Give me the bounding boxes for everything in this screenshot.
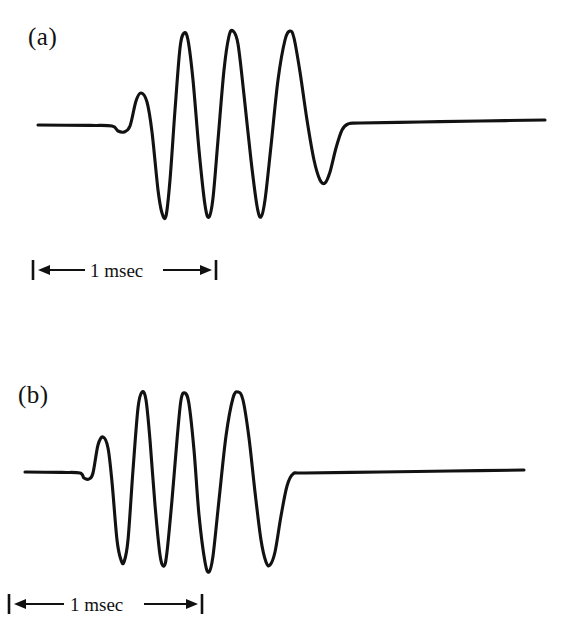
figure-container: (a) 1 msec (b) <box>0 0 564 633</box>
waveform-trace-b <box>0 0 564 633</box>
scale-bar-b-label: 1 msec <box>70 594 123 616</box>
scale-bar-b: 1 msec <box>6 592 206 622</box>
scale-bar-right-arrow-icon <box>186 599 198 609</box>
waveform-path-b <box>25 392 524 573</box>
